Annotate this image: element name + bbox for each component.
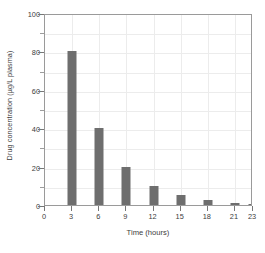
x-axis-tick <box>153 206 154 211</box>
gridline-vertical <box>235 15 236 205</box>
x-axis-tick-label: 0 <box>42 212 46 221</box>
x-axis-tick-label: 21 <box>230 212 238 221</box>
bar-chart-figure: Drug concentration (µg/L plasma) 0204060… <box>0 0 265 253</box>
bar <box>176 195 185 205</box>
y-axis-tick-minor <box>40 72 44 73</box>
x-axis-title: Time (hours) <box>44 228 252 237</box>
y-axis-tick-minor <box>40 110 44 111</box>
bar <box>203 200 212 205</box>
y-axis-title: Drug concentration (µg/L plasma) <box>0 0 20 210</box>
bar <box>230 203 239 205</box>
y-axis-tick-major <box>38 52 44 53</box>
bar <box>149 186 158 205</box>
gridline-horizontal <box>45 34 251 35</box>
y-axis-title-text: Drug concentration (µg/L plasma) <box>6 50 15 160</box>
x-axis-tick <box>207 206 208 211</box>
x-axis-tick-label: 15 <box>176 212 184 221</box>
bar <box>249 204 253 205</box>
gridline-vertical <box>181 15 182 205</box>
x-axis-tick <box>234 206 235 211</box>
bar <box>68 51 77 205</box>
bar <box>122 167 131 205</box>
y-axis-tick-major <box>38 168 44 169</box>
gridline-vertical <box>154 15 155 205</box>
y-axis-tick-minor <box>40 33 44 34</box>
x-axis-tick-label: 18 <box>203 212 211 221</box>
x-axis-tick <box>44 206 45 211</box>
x-axis-tick-label: 9 <box>123 212 127 221</box>
y-axis-tick-major <box>38 129 44 130</box>
y-axis-tick-major <box>38 14 44 15</box>
x-axis-tick-label: 3 <box>69 212 73 221</box>
bar <box>95 128 104 205</box>
x-axis-tick-label: 23 <box>248 212 256 221</box>
x-axis-tick <box>125 206 126 211</box>
x-axis-tick <box>71 206 72 211</box>
y-axis-tick-minor <box>40 187 44 188</box>
x-axis-tick-label: 6 <box>96 212 100 221</box>
x-axis-tick <box>180 206 181 211</box>
y-axis-tick-minor <box>40 148 44 149</box>
plot-area <box>44 14 252 206</box>
y-axis-tick-labels: 020406080100 <box>20 14 42 206</box>
gridline-vertical <box>208 15 209 205</box>
x-axis-tick <box>252 206 253 211</box>
x-axis-tick-label: 12 <box>148 212 156 221</box>
x-axis-tick <box>98 206 99 211</box>
y-axis-tick-major <box>38 91 44 92</box>
